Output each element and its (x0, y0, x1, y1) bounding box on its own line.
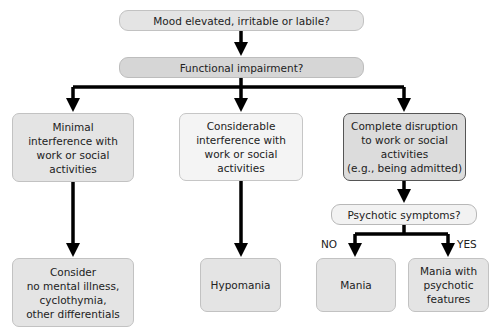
node-mood-question: Mood elevated, irritable or labile? (119, 10, 364, 31)
edge-label-no: NO (321, 238, 337, 250)
node-minimal-interference: Minimal interference with work or social… (12, 113, 134, 182)
node-consider-differentials: Consider no mental illness, cyclothymia,… (12, 258, 134, 327)
node-complete-disruption: Complete disruption to work or social ac… (343, 113, 466, 181)
node-mania-psychotic-features: Mania with psychotic features (408, 258, 489, 312)
node-functional-impairment: Functional impairment? (119, 57, 364, 78)
node-considerable-interference: Considerable interference with work or s… (179, 113, 303, 181)
node-psychotic-question: Psychotic symptoms? (331, 204, 477, 225)
edge-label-yes: YES (457, 238, 477, 250)
node-mania: Mania (316, 258, 396, 312)
node-hypomania: Hypomania (200, 258, 281, 312)
